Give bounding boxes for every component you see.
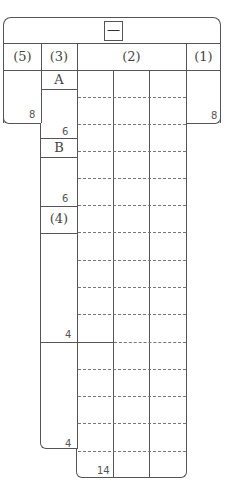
section-b-divider	[41, 157, 77, 158]
col2-frame	[76, 449, 187, 478]
column-header-2: (2)	[77, 49, 186, 64]
grid-row-line	[114, 342, 186, 343]
divider-3-2	[77, 43, 78, 449]
header-divider	[4, 43, 220, 44]
section-4-count-upper: 4	[65, 329, 71, 340]
grid-row-line	[78, 369, 186, 370]
col2-subdivider-1	[113, 70, 114, 478]
section-a-divider	[41, 89, 77, 90]
grid-row-line	[78, 97, 186, 98]
col5-count: 8	[29, 109, 35, 120]
grid-row-line	[78, 260, 186, 261]
section-4-count-lower: 4	[65, 438, 71, 449]
section-b-count: 6	[62, 193, 68, 204]
col3-frame	[40, 123, 77, 449]
section-b-top	[41, 138, 77, 139]
col1-count: 8	[211, 110, 217, 121]
section-4-split	[41, 342, 113, 343]
col2-count: 14	[97, 465, 110, 476]
section-b-label: B	[41, 140, 77, 155]
column-header-divider	[4, 70, 220, 71]
grid-row-line	[78, 451, 186, 452]
column-header-1: (1)	[186, 49, 221, 64]
grid-row-line	[78, 232, 186, 233]
column-header-5: (5)	[4, 49, 41, 64]
divider-2-1	[186, 43, 187, 123]
grid-row-line	[78, 314, 186, 315]
col2-right-edge	[186, 123, 187, 453]
section-a-label: A	[41, 72, 77, 87]
grid-row-line	[78, 287, 186, 288]
title-text: 一	[107, 23, 120, 38]
column-header-3: (3)	[41, 49, 77, 64]
grid-row-line	[78, 205, 186, 206]
title-box: 一	[104, 21, 123, 41]
section-4-top	[41, 206, 77, 207]
grid-row-line	[78, 396, 186, 397]
grid-row-line	[78, 124, 186, 125]
grid-row-line	[78, 423, 186, 424]
section-4-divider	[41, 233, 77, 234]
section-4-label: (4)	[41, 211, 77, 226]
col2-subdivider-2	[149, 70, 150, 478]
section-a-count: 6	[62, 126, 68, 137]
grid-row-line	[78, 151, 186, 152]
grid-row-line	[78, 178, 186, 179]
